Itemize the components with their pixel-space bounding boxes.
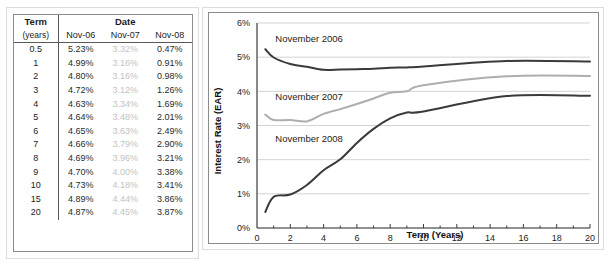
cell-rate-nov-07: 3.48% [103,111,147,125]
x-tick-label: 8 [388,233,393,243]
yield-curve-chart-panel: 0%1%2%3%4%5%6% 02468101214161820 Novembe… [208,12,599,244]
table-header-row-bottom: (years) Nov-06 Nov-07 Nov-08 [14,29,192,43]
cell-rate-nov-08: 3.87% [148,206,193,220]
cell-term: 2 [14,70,58,84]
table-row: 64.65%3.63%2.49% [14,125,192,139]
cell-term: 0.5 [14,43,58,57]
table-row: 204.87%4.45%3.87% [14,206,192,220]
cell-rate-nov-06: 5.23% [58,43,103,57]
y-tick-label: 6% [237,18,250,28]
series-line-november-2006 [265,49,590,70]
cell-rate-nov-07: 4.00% [103,166,147,180]
table-header: Term Date (years) Nov-06 Nov-07 Nov-08 [14,15,192,43]
cell-rate-nov-07: 4.44% [103,193,147,207]
cell-rate-nov-08: 1.26% [148,84,193,98]
table-row: 104.73%4.18%3.41% [14,179,192,193]
cell-rate-nov-08: 2.90% [148,138,193,152]
cell-rate-nov-07: 3.34% [103,98,147,112]
cell-term: 6 [14,125,58,139]
table-body: 0.55.23%3.32%0.47%14.99%3.16%0.91%24.80%… [14,43,192,220]
x-tick-label: 4 [321,233,326,243]
cell-rate-nov-08: 1.69% [148,98,193,112]
x-tick-label: 18 [552,233,562,243]
cell-rate-nov-06: 4.65% [58,125,103,139]
table-row: 0.55.23%3.32%0.47% [14,43,192,57]
cell-term: 15 [14,193,58,207]
column-header-nov-08: Nov-08 [148,29,193,43]
table-row: 84.69%3.96%3.21% [14,152,192,166]
cell-rate-nov-08: 3.38% [148,166,193,180]
series-annotations: November 2006November 2007November 2008 [275,33,343,144]
table-row: 154.89%4.44%3.86% [14,193,192,207]
series-annotation-november-2006: November 2006 [275,33,343,44]
cell-rate-nov-08: 0.91% [148,57,193,71]
x-tick-label: 0 [254,233,259,243]
cell-rate-nov-07: 3.16% [103,70,147,84]
cell-rate-nov-07: 3.96% [103,152,147,166]
interest-rate-table-panel: Term Date (years) Nov-06 Nov-07 Nov-08 0… [13,14,193,252]
column-header-date-group: Date [58,15,192,29]
series-annotation-november-2008: November 2008 [275,133,343,144]
y-tick-label: 2% [237,155,250,165]
table-row: 44.63%3.34%1.69% [14,98,192,112]
x-tick-label: 6 [354,233,359,243]
column-header-term-units: (years) [14,29,58,43]
column-header-nov-06: Nov-06 [58,29,103,43]
cell-rate-nov-06: 4.89% [58,193,103,207]
cell-rate-nov-06: 4.80% [58,70,103,84]
table-row: 74.66%3.79%2.90% [14,138,192,152]
cell-term: 10 [14,179,58,193]
cell-rate-nov-07: 3.63% [103,125,147,139]
column-header-nov-07: Nov-07 [103,29,147,43]
figure-container: Term Date (years) Nov-06 Nov-07 Nov-08 0… [0,0,609,271]
y-tick-label: 3% [237,121,250,131]
cell-term: 7 [14,138,58,152]
y-axis-tick-labels: 0%1%2%3%4%5%6% [237,18,250,233]
table-row: 34.72%3.12%1.26% [14,84,192,98]
cell-rate-nov-06: 4.66% [58,138,103,152]
table-row: 24.80%3.16%0.98% [14,70,192,84]
cell-term: 20 [14,206,58,220]
cell-term: 3 [14,84,58,98]
cell-rate-nov-08: 0.98% [148,70,193,84]
cell-term: 8 [14,152,58,166]
table-row: 54.64%3.48%2.01% [14,111,192,125]
y-tick-label: 4% [237,87,250,97]
cell-rate-nov-07: 4.18% [103,179,147,193]
x-tick-label: 2 [288,233,293,243]
table-row: 14.99%3.16%0.91% [14,57,192,71]
x-axis-title: Term (Years) [407,229,464,240]
cell-rate-nov-06: 4.72% [58,84,103,98]
cell-rate-nov-08: 2.49% [148,125,193,139]
interest-rate-table: Term Date (years) Nov-06 Nov-07 Nov-08 0… [14,15,192,220]
gridlines [257,23,590,228]
yield-curve-chart: 0%1%2%3%4%5%6% 02468101214161820 Novembe… [209,13,598,243]
cell-rate-nov-06: 4.69% [58,152,103,166]
cell-term: 1 [14,57,58,71]
cell-rate-nov-06: 4.87% [58,206,103,220]
data-series [265,49,590,212]
series-annotation-november-2007: November 2007 [275,91,343,102]
table-header-row-top: Term Date [14,15,192,29]
cell-rate-nov-06: 4.63% [58,98,103,112]
cell-rate-nov-06: 4.73% [58,179,103,193]
column-header-term: Term [14,15,58,29]
cell-rate-nov-08: 3.41% [148,179,193,193]
cell-term: 4 [14,98,58,112]
cell-rate-nov-07: 3.12% [103,84,147,98]
table-row: 94.70%4.00%3.38% [14,166,192,180]
cell-rate-nov-07: 4.45% [103,206,147,220]
y-axis-title: Interest Rate (EAR) [212,88,223,175]
cell-rate-nov-06: 4.70% [58,166,103,180]
cell-rate-nov-07: 3.79% [103,138,147,152]
series-line-november-2008 [265,95,590,212]
cell-term: 5 [14,111,58,125]
cell-rate-nov-06: 4.99% [58,57,103,71]
cell-rate-nov-08: 3.86% [148,193,193,207]
cell-term: 9 [14,166,58,180]
x-tick-label: 20 [585,233,595,243]
cell-rate-nov-08: 2.01% [148,111,193,125]
cell-rate-nov-08: 0.47% [148,43,193,57]
x-tick-label: 16 [518,233,528,243]
y-tick-label: 5% [237,52,250,62]
